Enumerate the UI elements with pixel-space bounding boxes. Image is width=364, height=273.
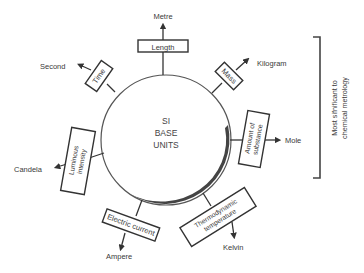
unit-label-candela: Candela bbox=[14, 165, 43, 174]
quantity-amount-of-substance: Amount of substance Mole bbox=[230, 111, 301, 168]
unit-label-second: Second bbox=[40, 62, 65, 71]
center-circle: SI BASE UNITS bbox=[101, 75, 231, 205]
si-base-units-diagram: SI BASE UNITS Length Metre Mass Kilogram… bbox=[0, 0, 364, 273]
quantity-electric-current: Electric current Ampere bbox=[102, 200, 159, 261]
quantity-mass: Mass Kilogram bbox=[212, 59, 287, 93]
bracket-note-line1: Most sifnificant to bbox=[330, 80, 339, 136]
connector-time bbox=[107, 84, 115, 92]
center-label-line3: UNITS bbox=[153, 140, 179, 150]
quantity-length: Length Metre bbox=[138, 12, 188, 75]
unit-label-ampere: Ampere bbox=[106, 252, 132, 261]
unit-label-kelvin: Kelvin bbox=[223, 243, 243, 252]
connector-current bbox=[136, 200, 142, 216]
connector-temperature bbox=[203, 193, 211, 206]
connector-mass bbox=[212, 83, 222, 93]
bracket-note-line2: chemical metrology bbox=[340, 77, 349, 139]
arrow-current bbox=[121, 233, 125, 248]
chemical-metrology-bracket: Most sifnificant to chemical metrology bbox=[313, 37, 349, 178]
quantity-label-length: Length bbox=[152, 43, 175, 52]
unit-label-kilogram: Kilogram bbox=[257, 59, 287, 68]
arrow-mass bbox=[236, 60, 247, 70]
quantity-luminous-intensity: Luminous intensity Candela bbox=[14, 127, 104, 194]
unit-label-metre: Metre bbox=[153, 12, 172, 21]
center-label-line2: BASE bbox=[155, 128, 178, 138]
quantity-time: Time Second bbox=[40, 61, 115, 92]
center-label-line1: SI bbox=[162, 116, 170, 126]
unit-label-mole: Mole bbox=[285, 136, 301, 145]
arrow-temperature bbox=[232, 222, 234, 236]
arrow-time bbox=[80, 65, 91, 70]
bracket-line bbox=[313, 37, 320, 178]
